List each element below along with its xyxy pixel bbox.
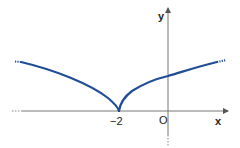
function-graph: y x O −2: [0, 0, 240, 148]
curve-right-dotted: [217, 60, 226, 62]
curve-left-branch: [21, 62, 119, 111]
y-axis-label: y: [158, 10, 165, 22]
curve: [15, 60, 226, 111]
x-axis-label: x: [215, 115, 222, 127]
origin-label: O: [159, 114, 168, 126]
tick-label-minus-2: −2: [110, 115, 123, 127]
